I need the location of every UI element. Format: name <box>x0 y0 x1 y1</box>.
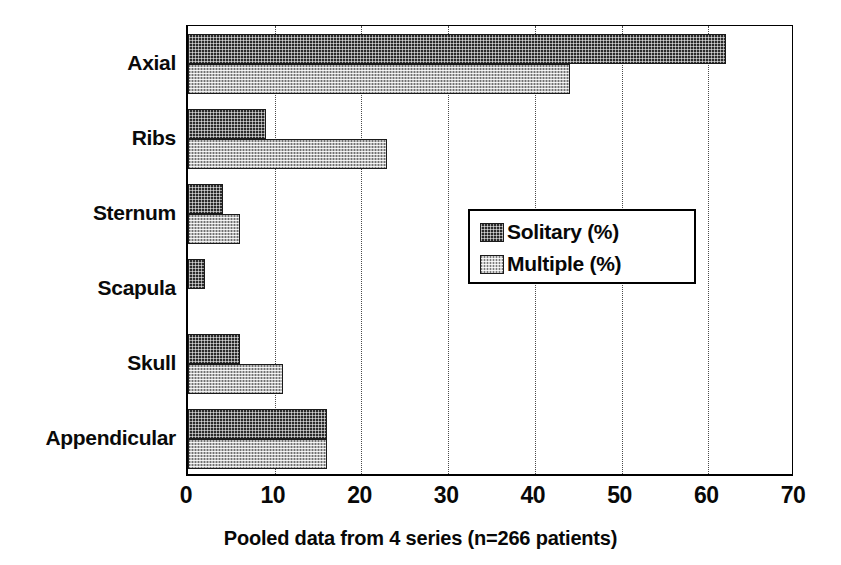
category-label-appendicular: Appendicular <box>0 426 176 450</box>
legend-label-multiple: Multiple (%) <box>507 252 621 276</box>
x-tick-label-0: 0 <box>180 482 192 509</box>
category-label-skull: Skull <box>0 351 176 375</box>
legend-swatch-multiple-icon <box>480 255 504 274</box>
gridline-60 <box>708 26 709 474</box>
bar-ribs-multiple <box>188 139 387 169</box>
bar-skull-solitary <box>188 334 240 364</box>
chart-legend: Solitary (%) Multiple (%) <box>468 209 696 284</box>
legend-swatch-solitary-icon <box>480 223 504 242</box>
chart-caption: Pooled data from 4 series (n=266 patient… <box>0 527 841 550</box>
x-tick-label-10: 10 <box>260 482 285 509</box>
bar-sternum-multiple <box>188 214 240 244</box>
legend-item-solitary: Solitary (%) <box>480 216 694 248</box>
category-label-scapula: Scapula <box>0 276 176 300</box>
bar-sternum-solitary <box>188 184 223 214</box>
bar-appendicular-solitary <box>188 409 327 439</box>
legend-label-solitary: Solitary (%) <box>507 220 619 244</box>
category-label-axial: Axial <box>0 51 176 75</box>
legend-item-multiple: Multiple (%) <box>480 248 694 280</box>
x-tick-label-30: 30 <box>434 482 459 509</box>
x-tick-label-20: 20 <box>347 482 372 509</box>
x-tick-label-70: 70 <box>781 482 806 509</box>
bar-axial-solitary <box>188 34 726 64</box>
x-tick-label-40: 40 <box>521 482 546 509</box>
bar-skull-multiple <box>188 364 283 394</box>
x-tick-label-50: 50 <box>607 482 632 509</box>
category-label-ribs: Ribs <box>0 126 176 150</box>
bar-scapula-solitary <box>188 259 205 289</box>
category-label-sternum: Sternum <box>0 201 176 225</box>
bar-axial-multiple <box>188 64 570 94</box>
x-tick-label-60: 60 <box>694 482 719 509</box>
bar-appendicular-multiple <box>188 439 327 469</box>
bar-ribs-solitary <box>188 109 266 139</box>
bar-chart-figure: AxialRibsSternumScapulaSkullAppendicular… <box>0 0 841 565</box>
